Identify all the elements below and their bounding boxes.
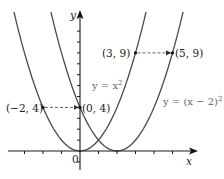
x-axis xyxy=(8,148,198,155)
y-axis xyxy=(77,10,84,170)
axis-ticks xyxy=(25,31,173,162)
parabola-translation-chart: y x 0 (−2, 4) (0, 4) (3, 9) (5, 9) y = x… xyxy=(0,0,224,179)
y-axis-label: y xyxy=(69,9,77,21)
x-axis-label: x xyxy=(186,155,192,167)
curve2-label: y = (x − 2)2 xyxy=(162,95,222,107)
point-label-neg2-4: (−2, 4) xyxy=(6,102,43,114)
point-marker xyxy=(171,51,174,54)
point-marker xyxy=(134,51,137,54)
curve1-label: y = x2 xyxy=(91,79,123,91)
origin-label: 0 xyxy=(72,153,79,165)
point-label-3-9: (3, 9) xyxy=(102,47,130,59)
point-label-5-9: (5, 9) xyxy=(175,47,203,59)
point-label-0-4: (0, 4) xyxy=(82,102,110,114)
